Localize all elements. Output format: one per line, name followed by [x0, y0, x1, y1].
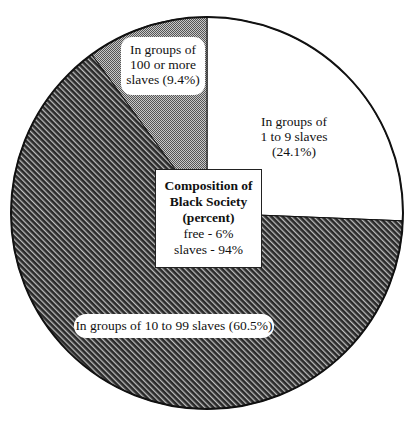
label-10-to-99: In groups of 10 to 99 slaves (60.5%): [74, 314, 274, 338]
label-line: In groups of: [250, 114, 338, 129]
label-line: In groups of: [121, 42, 205, 57]
inset-title: Black Society: [156, 194, 261, 210]
label-line: slaves (9.4%): [121, 72, 205, 87]
label-1-to-9: In groups of 1 to 9 slaves (24.1%): [250, 114, 338, 159]
label-line: 100 or more: [121, 57, 205, 72]
inset-title: Composition of: [156, 178, 261, 194]
inset-subtitle: (percent): [156, 210, 261, 226]
composition-inset: Composition of Black Society (percent) f…: [155, 169, 262, 268]
inset-free: free - 6%: [156, 226, 261, 242]
label-line: (24.1%): [250, 144, 338, 159]
inset-slaves: slaves - 94%: [156, 242, 261, 258]
label-100-or-more: In groups of 100 or more slaves (9.4%): [121, 37, 205, 95]
label-line: 1 to 9 slaves: [250, 129, 338, 144]
